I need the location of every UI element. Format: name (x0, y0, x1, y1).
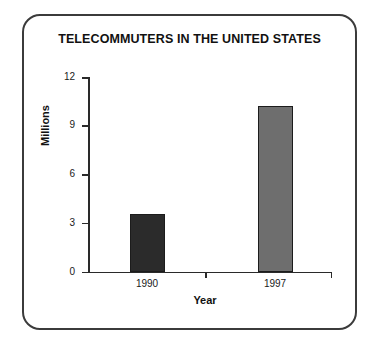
plot-area: 0 3 6 9 12 1990 1997 Millions Year (0, 0, 379, 348)
y-tick-0 (82, 272, 89, 274)
x-tick-label-1990: 1990 (117, 278, 177, 289)
y-tick-label-0: 0 (53, 267, 75, 277)
y-tick-9 (82, 125, 89, 127)
x-axis-title: Year (160, 294, 250, 306)
x-tick-label-1997: 1997 (245, 278, 305, 289)
bar-1990[interactable] (130, 214, 165, 273)
y-axis-title: Millions (39, 105, 51, 146)
x-tick-right-end (331, 272, 333, 278)
y-tick-3 (82, 223, 89, 225)
y-tick-label-12: 12 (53, 72, 75, 82)
x-tick-middle (205, 272, 207, 278)
y-tick-label-3: 3 (53, 218, 75, 228)
y-tick-12 (82, 77, 89, 79)
x-axis-line (88, 272, 332, 274)
bar-1997[interactable] (258, 106, 293, 272)
y-tick-label-6: 6 (53, 169, 75, 179)
y-tick-6 (82, 174, 89, 176)
y-tick-label-9: 9 (53, 120, 75, 130)
